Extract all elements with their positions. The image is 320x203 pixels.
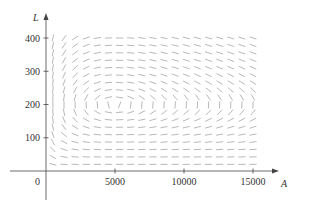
x-axis-label: A (280, 178, 288, 189)
slope-segment (250, 118, 256, 121)
slope-segment (195, 81, 201, 84)
slope-segment (73, 51, 78, 55)
slope-segment (105, 97, 111, 99)
slope-segment (251, 95, 254, 101)
slope-segment (52, 124, 53, 130)
slope-segment (217, 134, 223, 135)
slope-segment (73, 58, 78, 62)
slope-segment (250, 59, 256, 61)
slope-segment (63, 72, 66, 78)
slope-segment (73, 66, 78, 70)
slope-segment (228, 88, 233, 92)
slope-segment (183, 81, 189, 84)
slope-segment (207, 95, 211, 100)
x-tick-label: 5000 (105, 176, 125, 187)
slope-segment (50, 155, 56, 158)
slope-segment (128, 60, 134, 61)
slope-segment (52, 72, 53, 78)
slope-segment (172, 88, 177, 91)
slope-segment (139, 96, 144, 100)
slope-segment (74, 109, 76, 115)
slope-segment (195, 110, 200, 114)
slope-segment (94, 67, 100, 68)
slope-segment (239, 126, 245, 128)
slope-segment (217, 74, 223, 77)
slope-segment (150, 89, 156, 92)
slope-segment (128, 45, 134, 46)
slope-segment (239, 118, 245, 121)
slope-segment (172, 142, 178, 143)
slope-segment (217, 59, 223, 61)
slope-segment (139, 119, 145, 120)
slope-segment (196, 95, 200, 100)
slope-segment (73, 117, 77, 122)
slope-segment (72, 36, 77, 40)
slope-segment (150, 119, 156, 121)
slope-segment (161, 52, 167, 53)
slope-segment (94, 127, 100, 128)
slope-segment (194, 52, 200, 54)
slope-segment (205, 52, 211, 54)
slope-segment (62, 43, 66, 48)
slope-segment (94, 82, 100, 84)
slope-segment (139, 127, 145, 128)
slope-segment (239, 59, 245, 61)
slope-segment (195, 88, 200, 92)
slope-segment (228, 134, 234, 135)
slope-segment (250, 52, 256, 54)
slope-segment (172, 134, 178, 135)
slope-segment (250, 74, 256, 77)
slope-segment (240, 95, 243, 100)
slope-segment (217, 126, 223, 128)
slope-segment (95, 95, 100, 99)
slope-segment (162, 95, 166, 100)
slope-segment (61, 148, 67, 150)
slope-segment (150, 45, 156, 46)
slope-segment (139, 52, 145, 53)
slope-segment (161, 74, 167, 76)
slope-segment (239, 66, 245, 69)
slope-segment (161, 67, 167, 69)
slope-segment (239, 88, 244, 92)
slope-segment (172, 119, 178, 121)
slope-segment (118, 102, 120, 108)
slope-segment (228, 126, 234, 128)
slope-segment (206, 118, 212, 121)
slope-segment (83, 142, 89, 143)
x-axis-arrow-icon (272, 169, 279, 174)
slope-segment (183, 74, 189, 76)
slope-segment (194, 67, 200, 69)
slope-segment (72, 157, 78, 158)
slope-segment (62, 58, 65, 64)
slope-segment (172, 45, 178, 46)
slope-segment (62, 35, 66, 40)
y-tick-label: 200 (25, 99, 40, 110)
slope-segment (229, 110, 233, 115)
slope-segment (229, 95, 232, 100)
slope-segment (228, 52, 234, 54)
slope-segment (162, 110, 167, 114)
slope-segment (51, 139, 54, 144)
slope-segment (240, 110, 244, 115)
slope-segment (150, 127, 156, 128)
slope-segment (217, 110, 221, 115)
slope-segment (250, 134, 256, 135)
slope-segment (239, 81, 244, 84)
y-axis-arrow-icon (44, 13, 49, 20)
slope-segment (105, 75, 111, 76)
slope-segment (94, 134, 100, 135)
slope-segment (128, 38, 134, 39)
y-tick-label: 400 (25, 33, 40, 44)
slope-segment (74, 94, 76, 100)
y-tick-label: 100 (25, 132, 40, 143)
slope-segment (172, 74, 178, 76)
slope-segment (183, 126, 189, 127)
slope-segment (183, 45, 189, 47)
slope-segment (52, 42, 53, 48)
slope-segment (53, 79, 54, 85)
slope-segment (94, 45, 100, 46)
slope-segment (150, 111, 155, 114)
slope-segment (62, 125, 66, 130)
slope-segment (94, 37, 100, 38)
slope-segment (73, 80, 77, 85)
